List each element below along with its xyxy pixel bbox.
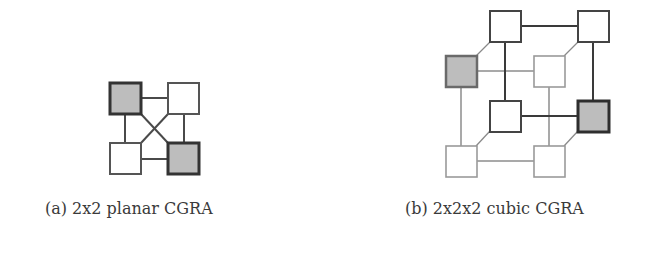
- pe-node-front: [534, 146, 565, 177]
- pe-node-back: [578, 11, 609, 42]
- pe-node-back-highlighted: [578, 101, 609, 132]
- depth-link-bottom-right: [564, 131, 578, 146]
- cubic-cgra-diagram: [446, 11, 609, 177]
- pe-node-back: [490, 101, 521, 132]
- depth-link-top-left: [476, 42, 490, 56]
- caption-planar-cgra: (a) 2x2 planar CGRA: [45, 199, 213, 218]
- pe-node-front: [446, 146, 477, 177]
- planar-cgra-diagram: [110, 83, 199, 174]
- pe-node: [168, 83, 199, 114]
- pe-node-front: [534, 56, 565, 87]
- caption-cubic-cgra: (b) 2x2x2 cubic CGRA: [405, 199, 584, 218]
- pe-node-highlighted: [168, 143, 199, 174]
- pe-node-front-highlighted: [446, 56, 477, 87]
- depth-link-bottom-left: [476, 131, 490, 146]
- pe-node-back: [490, 11, 521, 42]
- pe-node: [110, 143, 141, 174]
- cubic-nodes: [446, 11, 609, 177]
- pe-node-highlighted: [110, 83, 141, 114]
- depth-link-top-right: [564, 42, 578, 56]
